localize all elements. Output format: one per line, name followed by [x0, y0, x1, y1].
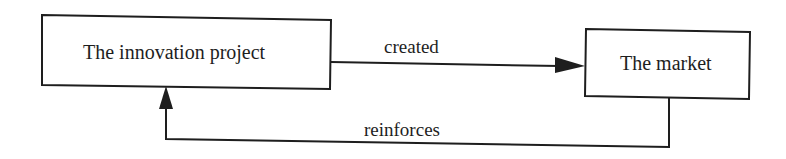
market-label: The market — [620, 53, 712, 73]
created-edge-label: created — [384, 37, 439, 56]
reinforces-arrowhead-icon — [159, 86, 173, 109]
created-arrowhead-icon — [555, 57, 585, 73]
created-arrow-line — [331, 62, 560, 66]
reinforces-edge-label: reinforces — [364, 120, 440, 139]
innovation-project-label: The innovation project — [83, 42, 265, 62]
diagram-canvas: The innovation project The market create… — [0, 0, 786, 159]
